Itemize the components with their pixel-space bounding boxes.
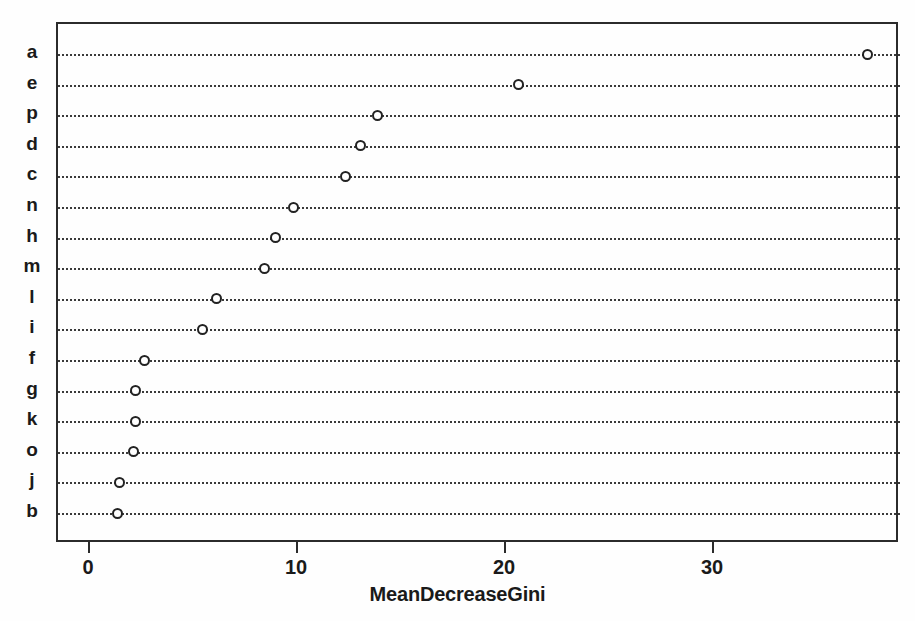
data-point-l	[211, 293, 222, 304]
gridline-p	[58, 115, 900, 117]
x-axis: 0102030	[56, 542, 898, 582]
data-point-b	[112, 508, 123, 519]
x-tick-label-20: 20	[474, 556, 534, 579]
y-axis-label-f: f	[12, 347, 52, 369]
gridline-d	[58, 146, 900, 148]
x-tick-label-10: 10	[266, 556, 326, 579]
gridline-c	[58, 176, 900, 178]
y-axis-label-k: k	[12, 408, 52, 430]
gridline-b	[58, 513, 900, 515]
data-point-a	[862, 49, 873, 60]
gridline-a	[58, 54, 900, 56]
gridline-e	[58, 85, 900, 87]
y-axis-label-g: g	[12, 378, 52, 400]
gridline-k	[58, 421, 900, 423]
y-axis-label-p: p	[12, 102, 52, 124]
gridline-i	[58, 329, 900, 331]
y-axis-category-labels: aepdcnhmlifgkojb	[8, 22, 52, 542]
x-tick-label-30: 30	[682, 556, 742, 579]
data-point-f	[139, 355, 150, 366]
data-point-d	[355, 140, 366, 151]
plot-frame	[56, 22, 898, 542]
y-axis-label-c: c	[12, 163, 52, 185]
y-axis-label-n: n	[12, 194, 52, 216]
data-point-o	[128, 446, 139, 457]
y-axis-label-b: b	[12, 500, 52, 522]
data-point-e	[513, 79, 524, 90]
x-tick-label-0: 0	[58, 556, 118, 579]
data-point-m	[259, 263, 270, 274]
gridline-j	[58, 482, 900, 484]
y-axis-label-d: d	[12, 133, 52, 155]
gridline-h	[58, 238, 900, 240]
data-point-j	[114, 477, 125, 488]
y-axis-label-i: i	[12, 316, 52, 338]
y-axis-label-h: h	[12, 225, 52, 247]
y-axis-label-a: a	[12, 41, 52, 63]
data-point-i	[197, 324, 208, 335]
data-point-p	[372, 110, 383, 121]
x-axis-title: MeanDecreaseGini	[0, 583, 915, 606]
x-tick-10	[296, 542, 298, 553]
y-axis-label-j: j	[12, 469, 52, 491]
x-tick-0	[88, 542, 90, 553]
y-axis-label-e: e	[12, 72, 52, 94]
x-tick-20	[504, 542, 506, 553]
y-axis-label-l: l	[12, 286, 52, 308]
gridline-g	[58, 391, 900, 393]
x-tick-30	[712, 542, 714, 553]
gridline-l	[58, 299, 900, 301]
y-axis-label-o: o	[12, 439, 52, 461]
data-point-k	[130, 416, 141, 427]
data-point-n	[288, 202, 299, 213]
data-point-c	[340, 171, 351, 182]
data-point-g	[130, 385, 141, 396]
gridline-n	[58, 207, 900, 209]
chart-page: aepdcnhmlifgkojb 0102030 MeanDecreaseGin…	[0, 0, 915, 621]
gridline-f	[58, 360, 900, 362]
gridline-m	[58, 268, 900, 270]
gridline-o	[58, 452, 900, 454]
data-point-h	[270, 232, 281, 243]
y-axis-label-m: m	[12, 255, 52, 277]
